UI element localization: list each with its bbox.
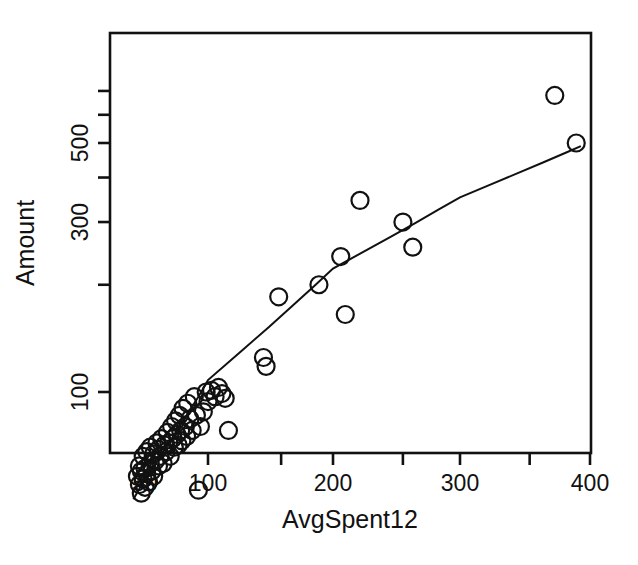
data-point-marker (351, 192, 368, 209)
data-point-marker (310, 276, 327, 293)
y-axis-ticks (98, 91, 110, 392)
y-tick-label: 100 (67, 373, 93, 411)
data-point-marker (332, 248, 349, 265)
data-point-marker (337, 306, 354, 323)
x-axis-title: AvgSpent12 (282, 505, 418, 533)
y-tick-label: 300 (67, 203, 93, 241)
x-axis-ticks (145, 453, 590, 465)
data-points (129, 87, 585, 502)
data-point-marker (394, 214, 411, 231)
x-tick-label: 200 (314, 470, 352, 496)
data-point-marker (546, 87, 563, 104)
y-axis-tick-labels: 100300500 (67, 124, 93, 411)
chart-page: 50100200300400 100300500 AvgSpent12 Amou… (0, 0, 638, 565)
y-tick-label: 500 (67, 124, 93, 162)
x-tick-label: 300 (441, 470, 479, 496)
y-axis-title: Amount (11, 200, 39, 286)
fit-curve (133, 146, 580, 499)
data-point-marker (270, 288, 287, 305)
data-point-marker (220, 422, 237, 439)
data-point-marker (404, 239, 421, 256)
x-tick-label: 400 (571, 470, 609, 496)
plot-frame (110, 33, 591, 453)
scatter-plot: 50100200300400 100300500 AvgSpent12 Amou… (0, 0, 638, 565)
